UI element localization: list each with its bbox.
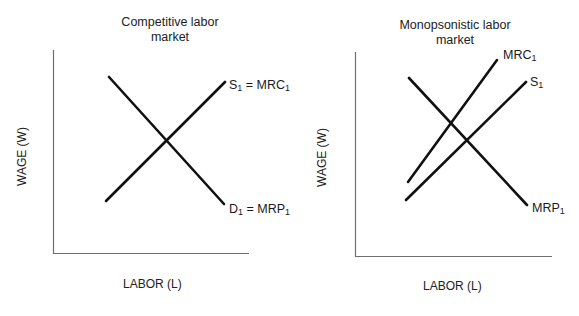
competitive-supply-curve — [106, 82, 225, 201]
diagram-canvas — [0, 0, 579, 316]
competitive-axes — [53, 50, 249, 254]
monopsonistic-supply-curve — [406, 82, 526, 200]
competitive-curves — [106, 77, 225, 204]
monopsonistic-mrc-curve — [408, 60, 497, 182]
monopsonistic-curves — [406, 60, 527, 205]
